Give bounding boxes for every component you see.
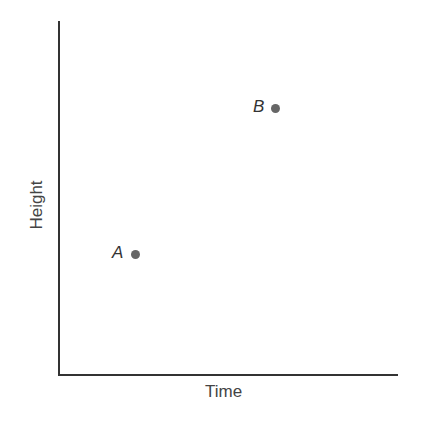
x-axis [58, 374, 398, 376]
y-axis [58, 21, 60, 376]
point-a-label: A [112, 243, 123, 263]
x-axis-label: Time [205, 382, 242, 402]
y-axis-label: Height [27, 180, 47, 229]
point-b-label: B [253, 97, 264, 117]
point-a-marker [131, 250, 140, 259]
point-b-marker [271, 104, 280, 113]
